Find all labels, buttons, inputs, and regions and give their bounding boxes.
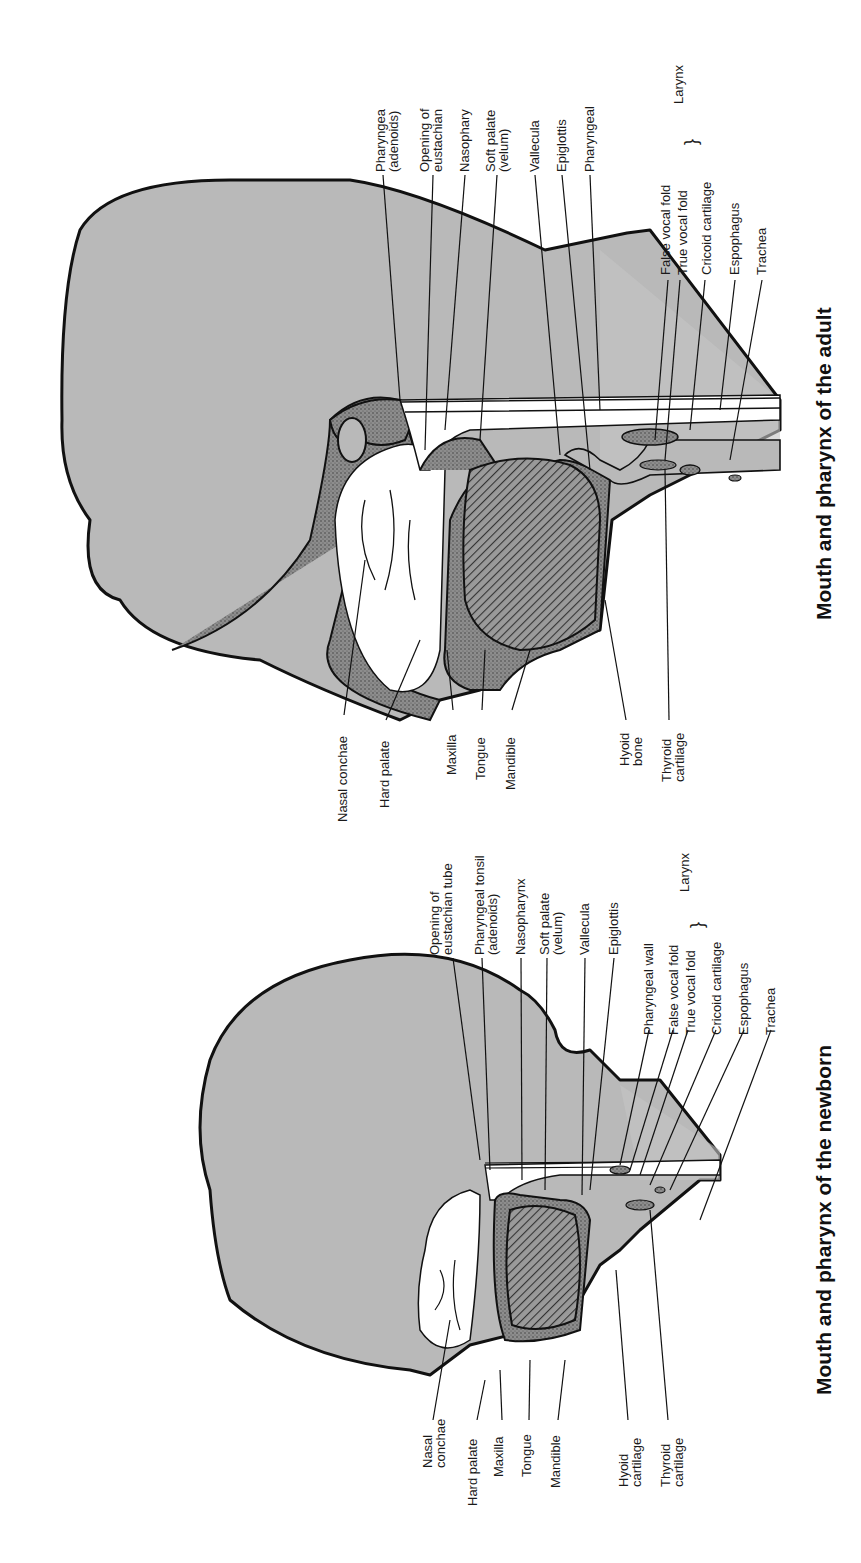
larynx-bracket-icon: } [682,139,700,145]
label-nasopharynx: Nasophary [458,109,471,172]
label-vallecula: Vallecula [578,903,591,955]
label-tongue: Tongue [474,737,487,780]
label-cricoid-cartilage: Cricoid cartilage [700,182,713,275]
adult-figure-title: Mouth and pharynx of the adult [812,307,836,620]
label-epiglottis: Epiglottis [555,119,568,172]
label-tongue: Tongue [520,1434,533,1477]
label-false-vocal-fold: False vocal fold [659,185,672,275]
label-esophagus: Espophagus [737,963,750,1035]
label-nasopharynx: Nasopharynx [514,878,527,955]
label-cricoid-cartilage: Cricoid cartilage [710,942,723,1035]
label-mandible: Mandible [549,1435,562,1488]
label-thyroid-cartilage: Thyroidcartilage [660,733,686,782]
label-maxilla: Maxilla [445,735,458,775]
label-mandible: Mandible [504,737,517,790]
label-larynx: Larynx [678,853,691,892]
label-nasal-conchae: Nasal conchae [336,736,349,822]
label-pharyngeal-wall: Pharyngeal wall [642,943,655,1035]
label-esophagus: Espophagus [728,203,741,275]
label-hyoid-cartilage: Hyoidcartilage [617,1438,643,1487]
label-eustachian-opening: Opening ofeustachian tube [428,863,454,955]
label-pharyngeal-tonsil: Pharyngeal tonsil(adenoids) [473,855,499,955]
label-true-vocal-fold: True vocal fold [684,950,697,1035]
newborn-figure-title: Mouth and pharynx of the newborn [812,1045,836,1395]
label-nasal-conchae: Nasalconchae [421,1419,447,1468]
label-trachea: Trachea [764,988,777,1035]
label-soft-palate: Soft palate(velum) [538,893,564,955]
label-pharyngeal-tonsil: Pharyngea(adenoids) [374,109,400,172]
label-larynx: Larynx [672,65,685,104]
label-hard-palate: Hard palate [466,1439,479,1506]
label-epiglottis: Epiglottis [607,902,620,955]
label-hyoid-bone: Hyoidbone [618,733,644,766]
label-maxilla: Maxilla [492,1437,505,1477]
label-false-vocal-fold: False vocal fold [667,945,680,1035]
label-trachea: Trachea [755,228,768,275]
label-eustachian-opening: Opening ofeustachian [418,108,444,172]
label-soft-palate: Soft palate(velum) [484,110,510,172]
label-hard-palate: Hard palate [378,741,391,808]
label-pharyngeal-wall: Pharyngeal [583,106,596,172]
larynx-bracket-icon: } [688,922,706,928]
label-true-vocal-fold: True vocal fold [676,190,689,275]
label-vallecula: Vallecula [528,120,541,172]
label-thyroid-cartilage: Thyroidcartilage [659,1438,685,1487]
